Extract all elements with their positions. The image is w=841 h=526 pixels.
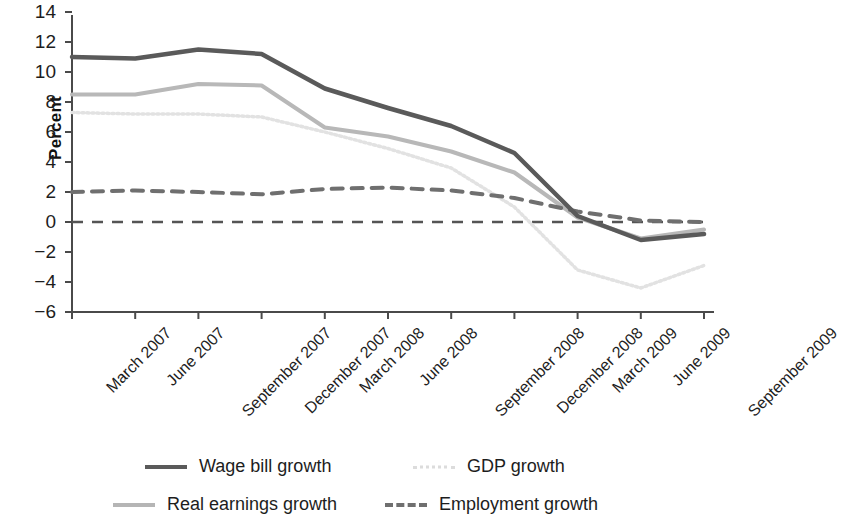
y-tick-label: −6 (16, 302, 56, 321)
y-tick-label: 4 (16, 152, 56, 171)
legend-item-gdp-growth[interactable]: GDP growth (413, 456, 565, 477)
legend-swatch-dashed-line-icon (385, 498, 427, 512)
y-tick-label: 8 (16, 92, 56, 111)
axis-layer (65, 12, 714, 319)
y-tick-label: 2 (16, 182, 56, 201)
series-layer (72, 50, 704, 289)
legend-item-real-earnings-growth[interactable]: Real earnings growth (113, 494, 337, 515)
legend-label: Wage bill growth (199, 456, 331, 477)
y-tick-label: 0 (16, 212, 56, 231)
y-tick-label: 12 (16, 32, 56, 51)
legend-item-employment-growth[interactable]: Employment growth (385, 494, 598, 515)
legend-item-wage-bill-growth[interactable]: Wage bill growth (145, 456, 331, 477)
legend-swatch-solid-line-icon (145, 460, 187, 474)
y-tick-label: −2 (16, 242, 56, 261)
legend-label: Real earnings growth (167, 494, 337, 515)
series-line-employment-growth (72, 188, 704, 223)
y-tick-label: 10 (16, 62, 56, 81)
chart-legend: Wage bill growth GDP growth Real earning… (0, 452, 770, 526)
legend-label: GDP growth (467, 456, 565, 477)
legend-label: Employment growth (439, 494, 598, 515)
series-line-wage-bill-growth (72, 50, 704, 241)
y-tick-label: 14 (16, 2, 56, 21)
y-tick-label: 6 (16, 122, 56, 141)
legend-swatch-dotted-line-icon (413, 460, 455, 474)
series-line-gdp-growth (72, 113, 704, 289)
y-tick-label: −4 (16, 272, 56, 291)
legend-swatch-solid-light-line-icon (113, 498, 155, 512)
